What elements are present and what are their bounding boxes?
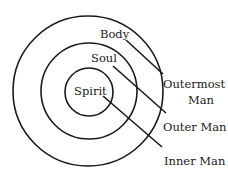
outermost-man-label: Man bbox=[188, 93, 215, 107]
outer-man-label: Outer Man bbox=[163, 120, 227, 134]
soul-label: Soul bbox=[91, 51, 117, 65]
spirit-label: Spirit bbox=[74, 84, 107, 98]
soul-callout-line bbox=[113, 66, 166, 113]
inner-man-label: Inner Man bbox=[164, 154, 226, 168]
concentric-man-diagram: Body Soul Spirit Outermost Man Outer Man… bbox=[0, 0, 228, 182]
body-label: Body bbox=[100, 27, 130, 41]
spirit-callout-line bbox=[103, 96, 162, 147]
outermost-label: Outermost bbox=[163, 77, 225, 91]
